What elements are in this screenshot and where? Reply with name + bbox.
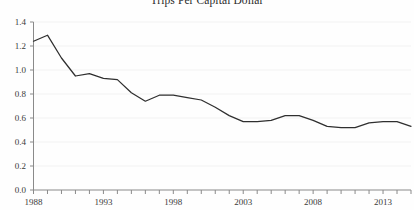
x-axis-ticks [34,190,412,194]
axis-lines [34,22,412,190]
plot-area [0,0,414,210]
chart-container: Trips Per Capital Dollar 0.00.20.40.60.8… [0,0,414,210]
y-axis-ticks [30,22,34,190]
gridlines [34,22,412,166]
data-series-line [34,35,412,127]
